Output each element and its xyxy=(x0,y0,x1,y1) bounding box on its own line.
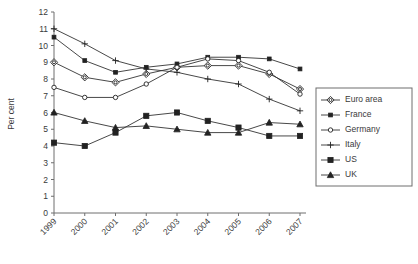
marker-small-square xyxy=(114,70,118,74)
marker-filled-square xyxy=(51,140,56,145)
legend-label: US xyxy=(345,154,357,164)
y-tick-label: 11 xyxy=(39,24,48,34)
y-tick-label: 7 xyxy=(43,91,48,101)
y-axis: 0123456789101112 xyxy=(39,7,54,218)
legend-label: Euro area xyxy=(345,94,383,104)
marker-filled-square xyxy=(328,157,333,162)
y-tick-label: 1 xyxy=(43,191,48,201)
data-point-open-circle xyxy=(206,57,210,61)
marker-open-circle xyxy=(175,65,179,69)
data-point-plus xyxy=(327,142,333,148)
marker-small-square xyxy=(83,59,87,63)
data-point-filled-square xyxy=(205,118,210,123)
x-tick-label: 2007 xyxy=(284,216,305,237)
marker-filled-square xyxy=(144,113,149,118)
data-point-plus xyxy=(112,57,118,63)
data-point-plus xyxy=(51,26,57,32)
data-point-open-diamond xyxy=(112,79,119,86)
x-axis: 199920002001200220032004200520062007 xyxy=(38,213,306,237)
marker-filled-square xyxy=(205,118,210,123)
data-point-open-diamond xyxy=(50,59,57,66)
data-point-small-filled-square xyxy=(329,113,333,117)
x-tick-label: 2005 xyxy=(222,216,243,237)
data-point-open-diamond xyxy=(204,62,211,69)
plot-area-series xyxy=(50,26,303,149)
marker-small-square xyxy=(267,57,271,61)
data-point-open-circle xyxy=(144,82,148,86)
data-point-small-filled-square xyxy=(83,59,87,63)
data-point-small-filled-square xyxy=(298,67,302,71)
data-point-open-circle xyxy=(328,128,332,132)
marker-filled-square xyxy=(82,143,87,148)
y-tick-label: 4 xyxy=(43,141,48,151)
x-tick-label: 2002 xyxy=(130,216,151,237)
marker-inner-circle xyxy=(299,88,302,91)
y-tick-label: 6 xyxy=(43,108,48,118)
data-point-filled-square xyxy=(297,133,302,138)
data-point-plus xyxy=(174,69,180,75)
y-tick-label: 12 xyxy=(39,7,49,17)
chart-container: 0123456789101112 19992000200120022003200… xyxy=(0,0,418,264)
data-point-small-filled-square xyxy=(114,70,118,74)
legend-label: Germany xyxy=(345,124,381,134)
data-point-plus xyxy=(266,96,272,102)
legend-item-uk[interactable]: UK xyxy=(321,169,357,179)
data-point-open-circle xyxy=(267,70,271,74)
marker-open-circle xyxy=(236,58,240,62)
legend-label: Italy xyxy=(345,139,361,149)
marker-open-circle xyxy=(298,92,302,96)
legend-item-euro-area[interactable]: Euro area xyxy=(321,94,383,104)
x-tick-label: 2000 xyxy=(69,216,90,237)
marker-filled-square xyxy=(297,133,302,138)
data-point-open-circle xyxy=(175,65,179,69)
y-tick-label: 5 xyxy=(43,124,48,134)
y-tick-label: 0 xyxy=(43,208,48,218)
series-italy xyxy=(51,26,303,114)
marker-open-circle xyxy=(206,57,210,61)
marker-filled-square xyxy=(267,133,272,138)
marker-open-circle xyxy=(267,70,271,74)
legend-item-germany[interactable]: Germany xyxy=(321,124,381,134)
marker-inner-circle xyxy=(114,81,117,84)
data-point-open-circle xyxy=(236,58,240,62)
marker-open-circle xyxy=(113,95,117,99)
legend-item-italy[interactable]: Italy xyxy=(321,139,361,149)
data-point-filled-square xyxy=(82,143,87,148)
data-point-filled-square xyxy=(174,110,179,115)
x-tick-label: 2006 xyxy=(253,216,274,237)
data-point-open-circle xyxy=(298,92,302,96)
data-point-filled-square xyxy=(51,140,56,145)
legend-item-us[interactable]: US xyxy=(321,154,357,164)
data-point-small-filled-square xyxy=(52,35,56,39)
marker-open-circle xyxy=(52,85,56,89)
marker-small-square xyxy=(52,35,56,39)
marker-small-square xyxy=(329,113,333,117)
y-tick-label: 3 xyxy=(43,158,48,168)
marker-inner-circle xyxy=(206,64,209,67)
data-point-open-circle xyxy=(52,85,56,89)
data-point-open-diamond xyxy=(327,96,334,103)
data-point-plus xyxy=(82,41,88,47)
chart-legend: Euro areaFranceGermanyItalyUSUK xyxy=(316,88,412,186)
marker-inner-circle xyxy=(145,72,148,75)
marker-inner-circle xyxy=(53,61,56,64)
x-tick-label: 2003 xyxy=(161,216,182,237)
data-point-filled-square xyxy=(144,113,149,118)
marker-small-square xyxy=(298,67,302,71)
x-tick-label: 2001 xyxy=(99,216,120,237)
data-point-open-circle xyxy=(113,95,117,99)
x-tick-label: 2004 xyxy=(192,216,213,237)
marker-filled-square xyxy=(113,130,118,135)
marker-inner-circle xyxy=(329,99,332,102)
marker-filled-square xyxy=(174,110,179,115)
data-point-filled-square xyxy=(113,130,118,135)
marker-open-circle xyxy=(328,128,332,132)
line-chart: 0123456789101112 19992000200120022003200… xyxy=(0,0,418,264)
data-point-plus xyxy=(297,108,303,114)
data-point-filled-square xyxy=(267,133,272,138)
y-tick-label: 2 xyxy=(43,175,48,185)
marker-open-circle xyxy=(83,95,87,99)
legend-item-france[interactable]: France xyxy=(321,109,372,119)
y-tick-label: 10 xyxy=(39,41,49,51)
data-point-filled-square xyxy=(328,157,333,162)
